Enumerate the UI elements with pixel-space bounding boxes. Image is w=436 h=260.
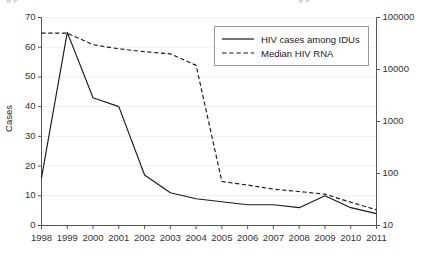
legend-label-hiv-cases: HIV cases among IDUs: [261, 34, 360, 45]
y-axis-right-tick-100000: 100000: [383, 11, 415, 22]
legend-entry-hiv-cases: HIV cases among IDUs: [221, 32, 360, 46]
x-axis-tick-2011: 2011: [360, 232, 394, 243]
legend-swatch-dashed: [221, 48, 255, 58]
legend-swatch-solid: [221, 34, 255, 44]
y-axis-left-tick-20: 20: [0, 160, 36, 171]
y-axis-left-tick-70: 70: [0, 11, 36, 22]
legend-label-median-hiv-rna: Median HIV RNA: [261, 48, 333, 59]
y-axis-right-tick-10000: 10000: [383, 63, 409, 74]
y-axis-left-tick-60: 60: [0, 41, 36, 52]
y-axis-right-tick-100: 100: [383, 167, 399, 178]
y-axis-left-tick-50: 50: [0, 70, 36, 81]
y-axis-right-tick-1000: 1000: [383, 115, 404, 126]
chart-legend: HIV cases among IDUs Median HIV RNA: [214, 26, 369, 66]
y-axis-right-tick-10: 10: [383, 219, 394, 230]
legend-entry-median-hiv-rna: Median HIV RNA: [221, 46, 360, 60]
hiv-cases-rna-chart: g p g p 010203040506070 1010010001000010…: [0, 0, 436, 260]
y-axis-left-tick-10: 10: [0, 189, 36, 200]
y-axis-left-title: Cases: [3, 97, 14, 141]
y-axis-left-tick-0: 0: [0, 219, 36, 230]
